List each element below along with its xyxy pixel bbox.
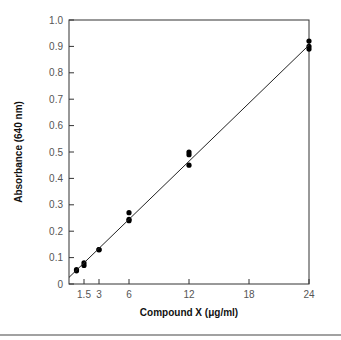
x-tick-label: 6	[126, 289, 132, 300]
y-axis-title: Absorbance (640 nm)	[13, 101, 24, 203]
x-axis-ticks: 1.536121824	[77, 279, 315, 300]
x-axis-title: Compound X (μg/ml)	[140, 307, 238, 318]
y-tick-label: 0.2	[49, 226, 63, 237]
x-tick-label: 12	[183, 289, 195, 300]
y-tick-label: 0.4	[49, 173, 63, 184]
y-tick-label: 0.5	[49, 147, 63, 158]
chart: 00.10.20.30.40.50.60.70.80.91.0 1.536121…	[0, 0, 341, 340]
y-tick-label: 0.7	[49, 94, 63, 105]
y-tick-label: 0.3	[49, 199, 63, 210]
data-point	[186, 149, 191, 154]
data-point	[126, 210, 131, 215]
y-tick-label: 0.1	[49, 252, 63, 263]
y-tick-label: 1.0	[49, 15, 63, 26]
x-tick-label: 1.5	[77, 289, 91, 300]
y-tick-label: 0.6	[49, 120, 63, 131]
data-point	[306, 39, 311, 44]
y-axis-ticks: 00.10.20.30.40.50.60.70.80.91.0	[49, 15, 74, 290]
regression-line	[69, 45, 309, 277]
x-tick-label: 24	[303, 289, 315, 300]
x-tick-label: 3	[96, 289, 102, 300]
y-tick-label: 0.9	[49, 41, 63, 52]
y-tick-label: 0	[57, 279, 63, 290]
y-tick-label: 0.8	[49, 67, 63, 78]
x-tick-label: 18	[243, 289, 255, 300]
data-series	[69, 39, 312, 278]
